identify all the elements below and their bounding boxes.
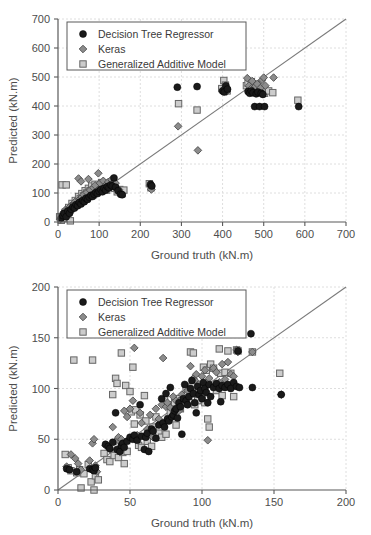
x-axis-tick-label: 600 [296,228,314,240]
data-point-keras [187,362,195,370]
data-point-keras [109,423,117,431]
y-axis-tick-label: 400 [32,100,50,112]
y-axis-tick-label: 200 [32,281,50,293]
data-point-legend-0 [80,299,87,306]
data-point-gam [131,421,137,427]
legend-label: Decision Tree Regressor [98,296,214,308]
y-axis-title: Predicted (kN.m) [7,77,19,163]
x-axis-tick-label: 400 [213,228,231,240]
x-axis-tick-label: 100 [90,228,108,240]
data-point-dtr [295,103,302,110]
data-point-dtr [73,468,80,475]
data-point-gam [175,100,181,106]
legend: Decision Tree RegressorKerasGeneralized … [67,22,246,70]
x-axis-title: Ground truth (kN.m) [151,517,253,529]
data-point-dtr [110,174,117,181]
legend-label: Decision Tree Regressor [98,28,214,40]
x-axis-tick-label: 0 [55,496,61,508]
y-axis-tick-label: 500 [32,71,50,83]
y-axis-tick-label: 600 [32,42,50,54]
y-axis-tick-label: 50 [38,433,50,445]
data-point-keras [174,123,182,131]
x-axis-tick-label: 700 [337,228,355,240]
series-gam [56,77,301,224]
data-point-legend-2 [80,329,86,335]
data-point-gam [230,393,236,399]
data-point-keras [85,175,93,183]
y-axis-tick-label: 0 [44,484,50,496]
data-point-dtr [191,399,198,406]
data-point-dtr [261,103,268,110]
data-point-gam [225,348,231,354]
data-point-gam [101,450,107,456]
data-point-gam [71,357,77,363]
data-point-dtr [66,466,73,473]
x-axis-tick-label: 200 [131,228,149,240]
y-axis-tick-label: 100 [32,383,50,395]
data-point-gam [216,346,222,352]
data-point-keras [152,405,160,413]
data-point-gam [206,424,212,430]
data-point-gam [141,392,147,398]
x-axis-tick-label: 150 [265,496,283,508]
data-point-keras [131,344,139,352]
data-point-gam [277,370,283,376]
legend-label: Generalized Additive Model [98,326,226,338]
data-point-dtr [235,347,242,354]
data-point-gam [205,416,211,422]
data-point-dtr [112,409,119,416]
data-point-gam [194,107,200,113]
data-point-gam [295,97,301,103]
data-point-dtr [145,448,152,455]
data-point-gam [88,479,94,485]
data-point-gam [121,460,127,466]
data-point-dtr [174,414,181,421]
data-point-gam [63,182,69,188]
data-point-dtr [174,84,181,91]
data-point-gam [173,422,179,428]
data-point-dtr [137,401,144,408]
y-axis-tick-label: 700 [32,13,50,25]
x-axis-tick-label: 200 [337,496,355,508]
data-point-legend-0 [80,31,87,38]
x-axis-tick-label: 50 [124,496,136,508]
data-point-gam [114,380,120,386]
data-point-dtr [109,439,116,446]
data-point-legend-2 [80,61,86,67]
data-point-dtr [150,428,157,435]
data-point-dtr [236,384,243,391]
data-point-dtr [152,435,159,442]
figure-container: 0100200300400500600700010020030040050060… [0,0,371,535]
data-point-keras [159,354,167,362]
data-point-dtr [161,424,168,431]
x-axis-tick-label: 500 [255,228,273,240]
data-point-dtr [249,384,256,391]
data-point-dtr [119,191,126,198]
data-point-gam [122,382,128,388]
chart-panel-top: 0100200300400500600700010020030040050060… [0,0,371,267]
data-point-dtr [167,384,174,391]
x-axis-tick-label: 100 [193,496,211,508]
data-point-dtr [224,86,231,93]
x-axis-title: Ground truth (kN.m) [151,249,253,261]
legend: Decision Tree RegressorKerasGeneralized … [67,290,246,338]
data-point-dtr [193,409,200,416]
chart-panel-bottom: 050100150200050100150200Ground truth (kN… [0,268,371,535]
data-point-keras [204,436,212,444]
data-point-dtr [188,377,195,384]
data-point-gam [270,89,276,95]
legend-label: Generalized Additive Model [98,58,226,70]
data-point-keras [194,147,202,155]
y-axis-tick-label: 0 [44,216,50,228]
legend-label: Keras [98,311,125,323]
data-point-dtr [148,183,155,190]
data-point-keras [95,169,103,177]
data-point-gam [118,350,124,356]
data-point-gam [127,388,133,394]
data-point-dtr [247,330,254,337]
data-point-gam [107,458,113,464]
data-point-dtr [194,83,201,90]
data-point-dtr [207,393,214,400]
data-point-gam [110,391,116,397]
y-axis-tick-label: 100 [32,187,50,199]
